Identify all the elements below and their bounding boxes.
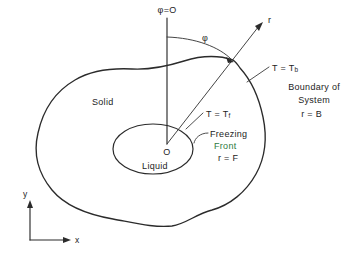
liquid-region-label: Liquid xyxy=(142,162,168,171)
phi-angle-label: φ xyxy=(202,34,208,43)
phi-angle-arc xyxy=(167,37,231,59)
origin-label: O xyxy=(163,148,170,157)
front-temperature-text: T = T xyxy=(206,109,228,119)
boundary-temperature-subscript: b xyxy=(294,66,298,73)
phi-zero-label: φ=O xyxy=(158,6,177,15)
solid-region-label: Solid xyxy=(92,98,114,107)
front-temp-leader-line xyxy=(186,113,203,129)
boundary-caption-line-2: System xyxy=(298,96,330,105)
freezing-front-leader-hook xyxy=(194,133,208,143)
front-temperature-subscript: f xyxy=(228,112,230,119)
front-temperature-label: T = Tf xyxy=(206,110,230,120)
y-axis-arrowhead xyxy=(27,200,33,208)
boundary-radius-label: r = B xyxy=(301,110,322,119)
radius-axis-label: r xyxy=(268,16,271,25)
boundary-temperature-text: T = T xyxy=(272,63,294,73)
x-axis-label: x xyxy=(75,236,80,245)
boundary-temperature-label: T = Tb xyxy=(272,64,298,74)
y-axis-label: y xyxy=(23,190,28,199)
diagram-canvas xyxy=(0,0,356,259)
radial-ray-line xyxy=(167,26,259,144)
boundary-caption-line-1: Boundary of xyxy=(288,83,340,92)
x-axis-arrowhead xyxy=(63,237,71,243)
boundary-temp-leader-line xyxy=(247,67,269,82)
figure-root: φ=O φ r T = Tb Boundary of System r = B … xyxy=(0,0,356,259)
freezing-front-caption-line-1: Freezing xyxy=(210,130,247,139)
freezing-front-caption-line-2: Front xyxy=(214,142,237,151)
freezing-front-radius-label: r = F xyxy=(218,154,238,163)
